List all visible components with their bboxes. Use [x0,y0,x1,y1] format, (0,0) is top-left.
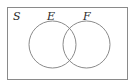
venn-diagram: S E F [0,0,130,84]
set-e-label: E [46,10,55,23]
set-f-label: F [82,10,91,23]
universe-label: S [13,10,21,23]
